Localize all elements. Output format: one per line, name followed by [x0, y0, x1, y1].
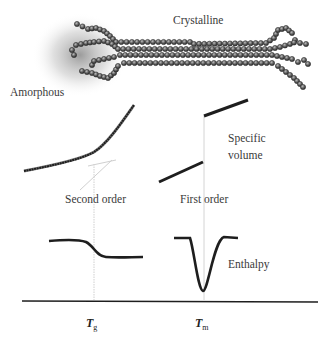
tg-subscript: g — [93, 323, 97, 332]
temperature-axis — [22, 301, 318, 302]
label-crystalline: Crystalline — [173, 14, 223, 28]
label-enthalpy: Enthalpy — [228, 258, 270, 272]
label-tm: Tm — [195, 316, 209, 332]
label-specific: Specific — [228, 130, 266, 147]
enthalpy-step-curve — [49, 240, 143, 257]
label-amorphous: Amorphous — [10, 86, 64, 100]
polymer-transition-diagram — [0, 0, 326, 340]
label-specific-volume: Specific volume — [228, 130, 266, 164]
label-tg: Tg — [86, 316, 97, 332]
label-second-order: Second order — [65, 193, 126, 207]
tm-subscript: m — [202, 323, 208, 332]
label-volume: volume — [228, 147, 266, 164]
label-first-order: First order — [180, 193, 228, 207]
